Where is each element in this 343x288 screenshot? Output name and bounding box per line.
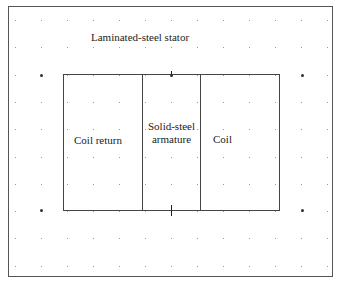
grid-dot — [15, 75, 16, 76]
grid-dot — [15, 129, 16, 130]
grid-dot — [145, 20, 146, 21]
grid-dot — [15, 157, 16, 158]
grid-dot — [223, 266, 224, 267]
grid-dot — [145, 47, 146, 48]
grid-dot — [223, 20, 224, 21]
grid-dot — [145, 211, 146, 212]
grid-dot — [327, 157, 328, 158]
grid-dot — [145, 266, 146, 267]
grid-dot — [249, 266, 250, 267]
grid-dot — [275, 20, 276, 21]
grid-dot — [15, 266, 16, 267]
grid-dot — [327, 238, 328, 239]
grid-dot — [249, 47, 250, 48]
grid-dot — [67, 211, 68, 212]
diagram-canvas: Laminated-steel stator Coil return Solid… — [0, 0, 343, 288]
grid-dot — [301, 20, 302, 21]
grid-dot — [249, 20, 250, 21]
grid-dot — [301, 102, 302, 103]
grid-dot — [41, 47, 42, 48]
grid-dot — [41, 157, 42, 158]
grid-dot — [67, 47, 68, 48]
grid-dot — [15, 102, 16, 103]
marker-dot — [301, 74, 304, 77]
grid-dot — [41, 184, 42, 185]
grid-dot — [93, 47, 94, 48]
grid-dot — [93, 266, 94, 267]
grid-dot — [119, 211, 120, 212]
grid-dot — [197, 47, 198, 48]
grid-dot — [327, 129, 328, 130]
marker-dot — [40, 209, 43, 212]
grid-dot — [223, 238, 224, 239]
grid-dot — [171, 20, 172, 21]
grid-dot — [145, 238, 146, 239]
marker-dot — [40, 74, 43, 77]
grid-dot — [197, 211, 198, 212]
grid-dot — [67, 266, 68, 267]
marker-dot — [301, 209, 304, 212]
grid-dot — [41, 129, 42, 130]
grid-dot — [15, 47, 16, 48]
coil-label: Coil — [213, 133, 232, 146]
grid-dot — [275, 238, 276, 239]
grid-dot — [249, 211, 250, 212]
grid-dot — [301, 47, 302, 48]
grid-dot — [119, 20, 120, 21]
grid-dot — [301, 238, 302, 239]
grid-dot — [171, 266, 172, 267]
grid-dot — [93, 20, 94, 21]
grid-dot — [249, 238, 250, 239]
grid-dot — [41, 238, 42, 239]
grid-dot — [327, 20, 328, 21]
grid-dot — [119, 47, 120, 48]
armature-label-line2: armature — [142, 133, 201, 146]
armature-bottom-tick — [171, 205, 172, 216]
grid-dot — [15, 20, 16, 21]
grid-dot — [197, 20, 198, 21]
grid-dot — [197, 238, 198, 239]
grid-dot — [275, 211, 276, 212]
armature-label-line1: Solid-steel — [142, 120, 201, 133]
grid-dot — [15, 184, 16, 185]
grid-dot — [327, 184, 328, 185]
grid-dot — [93, 238, 94, 239]
grid-dot — [15, 211, 16, 212]
grid-dot — [301, 184, 302, 185]
grid-dot — [327, 266, 328, 267]
grid-dot — [327, 75, 328, 76]
marker-dot — [170, 74, 173, 77]
grid-dot — [15, 238, 16, 239]
grid-dot — [41, 266, 42, 267]
grid-dot — [327, 47, 328, 48]
grid-dot — [223, 47, 224, 48]
grid-dot — [119, 266, 120, 267]
grid-dot — [327, 211, 328, 212]
grid-dot — [301, 266, 302, 267]
grid-dot — [67, 238, 68, 239]
stator-label: Laminated-steel stator — [91, 31, 189, 44]
grid-dot — [93, 211, 94, 212]
grid-dot — [301, 157, 302, 158]
grid-dot — [301, 129, 302, 130]
grid-dot — [171, 47, 172, 48]
grid-dot — [41, 20, 42, 21]
grid-dot — [223, 211, 224, 212]
grid-dot — [197, 266, 198, 267]
grid-dot — [327, 102, 328, 103]
coil-return-label: Coil return — [74, 134, 122, 147]
grid-dot — [41, 102, 42, 103]
grid-dot — [119, 238, 120, 239]
grid-dot — [67, 20, 68, 21]
grid-dot — [275, 47, 276, 48]
grid-dot — [275, 266, 276, 267]
grid-dot — [171, 238, 172, 239]
